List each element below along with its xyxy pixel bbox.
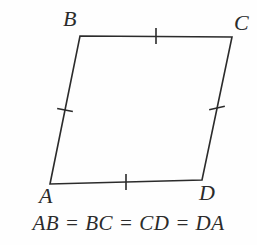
rhombus-drawing [0,0,257,245]
rhombus-figure: B C A D AB = BC = CD = DA [0,0,257,245]
rhombus-outline [50,36,232,184]
vertex-label-c: C [234,12,249,34]
vertex-label-d: D [199,182,215,204]
vertex-label-b: B [63,8,76,30]
figure-caption: AB = BC = CD = DA [0,211,257,236]
vertex-label-a: A [39,185,52,207]
